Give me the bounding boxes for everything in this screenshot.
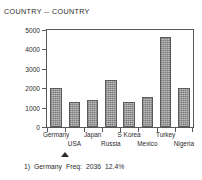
x-axis-labels: GermanyUSAJapanRussiaS KoreaMexicoTurkey…	[0, 131, 202, 153]
status-index: 1)	[24, 163, 30, 170]
y-axis-tick-label: 2000	[25, 85, 40, 92]
x-axis-tick-label: Germany	[43, 131, 69, 138]
bar-series	[47, 30, 193, 127]
y-axis-tick-label: 1000	[25, 104, 40, 111]
y-axis-tick-label: 4000	[25, 46, 40, 53]
bar[interactable]	[142, 97, 153, 127]
x-axis-tick-label: USA	[68, 140, 81, 147]
selection-triangle-icon	[61, 152, 69, 157]
bar[interactable]	[69, 102, 80, 127]
x-axis-tick-label: Russia	[101, 140, 121, 147]
status-freq-label: Freq:	[66, 163, 82, 170]
status-category: Germany	[34, 163, 62, 170]
x-axis-tick-label: Japan	[84, 131, 101, 138]
y-axis-tick-label: 0	[36, 124, 40, 131]
bar[interactable]	[105, 80, 116, 127]
y-axis-tick-label: 3000	[25, 65, 40, 72]
bar[interactable]	[123, 102, 134, 127]
y-axis: 500040003000200010000	[0, 29, 44, 128]
bar[interactable]	[87, 100, 98, 127]
status-percent: 12.4%	[105, 163, 124, 170]
status-freq-value: 2036	[86, 163, 101, 170]
x-axis-tick-label: Turkey	[156, 131, 175, 138]
chart-window: COUNTRY -- COUNTRY 500040003000200010000…	[0, 0, 202, 180]
bar[interactable]	[50, 88, 61, 127]
y-axis-tick-label: 5000	[25, 27, 40, 34]
x-axis-tick-label: S Korea	[118, 131, 141, 138]
chart-title: COUNTRY -- COUNTRY	[4, 7, 90, 16]
x-axis-tick-label: Mexico	[137, 140, 157, 147]
bar[interactable]	[178, 88, 189, 127]
bar[interactable]	[160, 37, 171, 127]
x-axis-tick-label: Nigeria	[174, 140, 194, 147]
status-bar: 1)GermanyFreq:203612.4%	[24, 163, 128, 170]
